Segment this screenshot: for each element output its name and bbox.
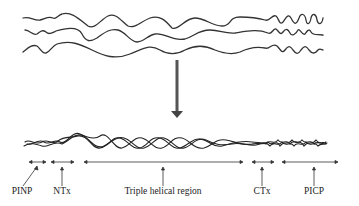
triple-helix-fibril	[24, 133, 327, 148]
label-pinp: PINP	[12, 186, 33, 196]
label-pointers	[23, 166, 316, 186]
procollagen-chain-3	[23, 42, 323, 57]
span-arrows	[29, 161, 338, 164]
label-picp: PICP	[304, 186, 324, 196]
label-ctx: CTx	[254, 186, 271, 196]
label-ntx: NTx	[53, 186, 70, 196]
label-triple-helical-region: Triple helical region	[124, 186, 201, 196]
procollagen-chain-2	[25, 28, 323, 42]
procollagen-chain-1	[23, 13, 323, 28]
collagen-diagram	[0, 0, 359, 206]
processing-arrow	[171, 60, 183, 118]
